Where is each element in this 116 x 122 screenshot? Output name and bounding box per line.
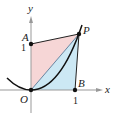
y-axis-label: y — [27, 2, 33, 14]
point-A — [29, 42, 33, 46]
math-diagram: y x A 1 P O B 1 — [0, 0, 116, 122]
y-axis-arrow-icon — [29, 16, 33, 23]
label-O: O — [20, 93, 28, 105]
x-tick-label: 1 — [73, 95, 78, 106]
label-P: P — [82, 24, 90, 36]
point-P — [77, 32, 81, 36]
x-axis-label: x — [104, 83, 110, 95]
point-O — [29, 88, 33, 92]
point-B — [73, 88, 77, 92]
label-B: B — [78, 77, 85, 89]
x-axis-arrow-icon — [96, 88, 103, 92]
diagram-canvas: y x A 1 P O B 1 — [0, 0, 116, 122]
y-tick-label: 1 — [21, 42, 26, 53]
